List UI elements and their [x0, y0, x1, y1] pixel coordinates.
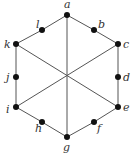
node-k [13, 41, 19, 47]
edge-h-i [16, 107, 42, 122]
node-label-h: h [35, 122, 42, 135]
node-d [115, 74, 121, 80]
node-e [115, 104, 121, 110]
edge-f-g [67, 122, 94, 137]
node-a [64, 12, 70, 18]
node-label-a: a [64, 0, 71, 11]
node-label-e: e [123, 101, 130, 114]
node-label-f: f [96, 122, 103, 135]
node-label-j: j [3, 71, 10, 84]
node-i [13, 104, 19, 110]
node-b [91, 27, 97, 33]
edge-g-h [42, 122, 67, 137]
node-l [39, 27, 45, 33]
node-label-b: b [98, 18, 105, 31]
node-label-g: g [63, 141, 70, 154]
node-label-l: l [36, 18, 40, 31]
edge-k-l [16, 30, 42, 44]
node-label-c: c [123, 38, 129, 51]
node-label-d: d [123, 71, 130, 84]
node-label-i: i [6, 103, 10, 116]
node-c [115, 41, 121, 47]
hexagon-graph-diagram: abcdefghijkl [0, 0, 133, 154]
node-g [64, 134, 70, 140]
edge-l-a [42, 15, 67, 30]
edges-group [16, 15, 118, 137]
edge-a-b [67, 15, 94, 30]
edge-e-f [94, 107, 118, 122]
edge-b-c [94, 30, 118, 44]
node-j [13, 74, 19, 80]
node-label-k: k [4, 38, 11, 51]
